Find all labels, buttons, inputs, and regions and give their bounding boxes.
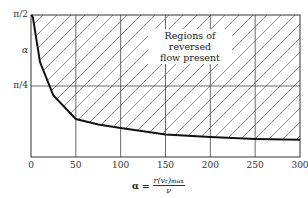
x-tick-50: 50 bbox=[61, 160, 91, 170]
x-label-max: max bbox=[171, 177, 184, 184]
x-axis-label: α = r(vr)max ν bbox=[132, 176, 185, 195]
region-line-1: Regions of reversed bbox=[148, 30, 232, 52]
x-label-den: ν bbox=[166, 186, 171, 195]
y-axis-label: α bbox=[2, 45, 28, 55]
region-annotation: Regions of reversed flow present bbox=[148, 29, 232, 64]
x-tick-100: 100 bbox=[106, 160, 136, 170]
x-label-fraction: r(vr)max ν bbox=[153, 176, 185, 195]
x-tick-0: 0 bbox=[16, 160, 46, 170]
region-line-2: flow present bbox=[148, 52, 232, 63]
x-tick-250: 250 bbox=[240, 160, 270, 170]
x-tick-150: 150 bbox=[151, 160, 181, 170]
x-tick-300: 300 bbox=[285, 160, 308, 170]
x-label-num: r(v bbox=[154, 176, 165, 185]
y-tick-pi-over-2: π/2 bbox=[2, 9, 28, 19]
x-tick-200: 200 bbox=[195, 160, 225, 170]
x-label-lhs: α = bbox=[132, 181, 150, 191]
y-tick-pi-over-4: π/4 bbox=[2, 80, 28, 90]
